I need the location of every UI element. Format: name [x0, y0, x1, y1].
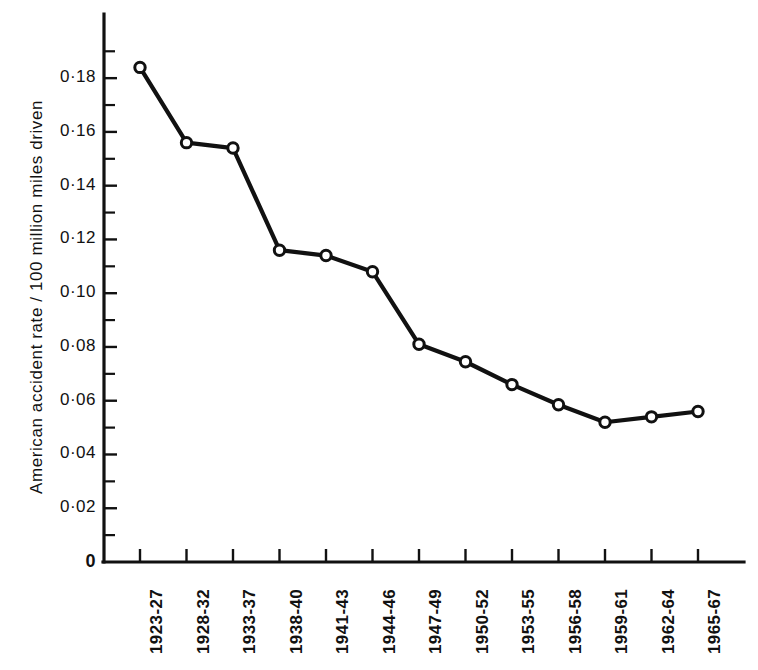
x-tick-label: 1965-67 [705, 589, 725, 654]
x-tick-label: 1956-58 [566, 589, 586, 654]
y-tick-label: 0·06 [60, 390, 96, 410]
accident-rate-line-chart: American accident rate / 100 million mil… [0, 0, 758, 670]
data-series [135, 62, 703, 427]
x-tick-label: 1928-32 [194, 589, 214, 654]
data-point-marker [553, 400, 563, 410]
data-point-marker [507, 379, 517, 389]
data-point-marker [181, 137, 191, 147]
data-point-marker [367, 266, 377, 276]
data-point-marker [460, 357, 470, 367]
x-tick-label: 1944-46 [380, 589, 400, 654]
x-tick-label: 1933-37 [240, 589, 260, 654]
data-point-marker [646, 412, 656, 422]
data-point-marker [228, 143, 238, 153]
x-tick-label: 1947-49 [426, 589, 446, 654]
plot-area [0, 0, 758, 670]
y-tick-label: 0·12 [60, 228, 96, 248]
y-tick-label: 0·14 [60, 175, 96, 195]
y-tick-label: 0 [85, 551, 96, 572]
y-tick-label: 0·16 [60, 121, 96, 141]
x-tick-label: 1959-61 [612, 589, 632, 654]
x-tick-label: 1962-64 [659, 589, 679, 654]
x-tick-label: 1953-55 [519, 589, 539, 654]
data-point-marker [693, 406, 703, 416]
data-point-marker [600, 417, 610, 427]
x-tick-label: 1941-43 [333, 589, 353, 654]
y-tick-label: 0·18 [60, 67, 96, 87]
data-point-marker [135, 62, 145, 72]
axes [103, 14, 744, 562]
y-tick-label: 0·02 [60, 497, 96, 517]
x-tick-label: 1923-27 [147, 589, 167, 654]
y-tick-label: 0·10 [60, 282, 96, 302]
data-point-marker [274, 245, 284, 255]
x-tick-label: 1938-40 [287, 589, 307, 654]
data-point-marker [321, 250, 331, 260]
x-tick-label: 1950-52 [473, 589, 493, 654]
data-point-marker [414, 339, 424, 349]
y-tick-label: 0·08 [60, 336, 96, 356]
data-line [140, 67, 698, 422]
y-tick-label: 0·04 [60, 443, 96, 463]
